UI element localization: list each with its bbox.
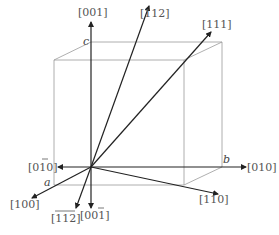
label-110: [110] <box>199 193 229 206</box>
axis-label-c: c <box>83 35 89 48</box>
label-100: [100] <box>10 198 40 211</box>
direction-vectors <box>32 6 246 208</box>
vector-110 <box>91 167 218 194</box>
axis-label-a: a <box>44 176 51 189</box>
label-112: [112] <box>140 7 170 20</box>
label-001: [001] <box>78 6 108 19</box>
label-m1m1m2: [112] <box>51 212 81 225</box>
vector-111 <box>91 32 211 167</box>
label-010: [010] <box>247 161 277 174</box>
label-111: [111] <box>202 18 232 31</box>
crystal-direction-diagram: c b a [001] [112] [111] [010] [110] [100… <box>0 0 279 235</box>
label-0-10: [010] <box>28 161 58 174</box>
label-00-1: [001] <box>80 209 110 222</box>
axis-label-b: b <box>223 153 230 166</box>
vector-112 <box>91 6 149 167</box>
